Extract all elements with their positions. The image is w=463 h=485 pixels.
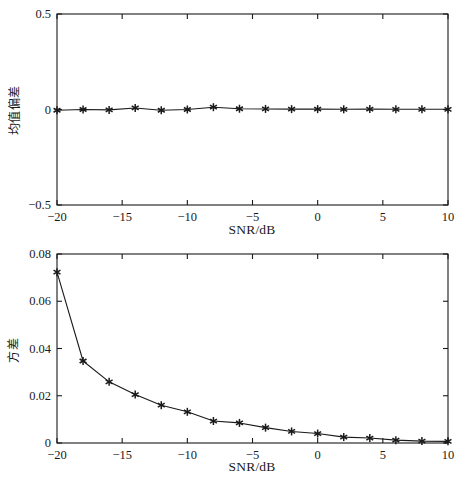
y-tick-label: 0.04: [0, 342, 51, 355]
x-tick-label: −5: [246, 211, 259, 224]
x-axis-title-snr-top: SNR/dB: [229, 222, 276, 238]
x-tick-label: 5: [380, 449, 386, 462]
x-tick-label: 0: [315, 449, 321, 462]
data-point-marker: [54, 268, 61, 276]
chart-panel-mean-bias: 均值偏差 SNR/dB −20−15−10−50510−0.500.5: [0, 0, 463, 240]
x-tick-label: 0: [315, 211, 321, 224]
y-tick-label: 0: [0, 437, 51, 450]
y-tick-label: 0.02: [0, 390, 51, 403]
figure-container: 均值偏差 SNR/dB −20−15−10−50510−0.500.5 方差 S…: [0, 0, 463, 485]
x-tick-label: −20: [47, 449, 67, 462]
x-tick-label: −10: [178, 449, 198, 462]
y-tick-label: 0: [0, 103, 51, 116]
y-tick-label: 0.08: [0, 248, 51, 261]
x-tick-label: 10: [442, 449, 455, 462]
x-tick-label: −15: [112, 211, 132, 224]
variance-plot-area: [0, 240, 463, 485]
chart-panel-variance: 方差 SNR/dB −20−15−10−5051000.020.040.060.…: [0, 240, 463, 485]
data-series-line: [57, 107, 448, 110]
x-tick-label: −15: [112, 449, 132, 462]
data-point-marker: [106, 378, 113, 386]
data-point-marker: [158, 401, 165, 409]
data-point-marker: [80, 357, 87, 365]
x-tick-label: 5: [380, 211, 386, 224]
plot-frame: [57, 254, 448, 443]
data-point-marker: [184, 408, 191, 416]
x-tick-label: −20: [47, 211, 67, 224]
x-tick-label: 10: [442, 211, 455, 224]
data-series-line: [57, 272, 448, 441]
x-tick-label: −5: [246, 449, 259, 462]
x-tick-label: −10: [178, 211, 198, 224]
y-tick-label: 0.5: [0, 8, 51, 21]
y-tick-label: −0.5: [0, 199, 51, 212]
mean-bias-plot-area: [0, 0, 463, 240]
data-point-marker: [132, 391, 139, 399]
y-tick-label: 0.06: [0, 295, 51, 308]
